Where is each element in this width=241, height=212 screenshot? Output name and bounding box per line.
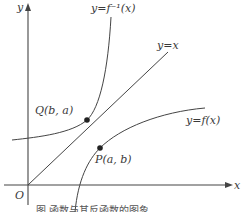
- function-label: y=f(x): [186, 115, 220, 126]
- point-p: [97, 145, 103, 151]
- identity-line-label: y=x: [157, 40, 179, 51]
- inverse-function-label: y=f⁻¹(x): [91, 3, 136, 14]
- point-q: [84, 117, 90, 123]
- inverse-function-curve: [12, 17, 111, 140]
- y-axis-label: y: [17, 2, 23, 13]
- x-axis-arrow-icon: [225, 182, 233, 188]
- point-p-label: P(a, b): [95, 154, 132, 165]
- x-axis-label: x: [234, 180, 240, 191]
- point-q-label: Q(b, a): [35, 105, 73, 116]
- origin-label: O: [15, 190, 24, 201]
- y-axis-arrow-icon: [25, 3, 31, 11]
- figure-caption: 图 函数与其反函数的图象: [36, 206, 149, 212]
